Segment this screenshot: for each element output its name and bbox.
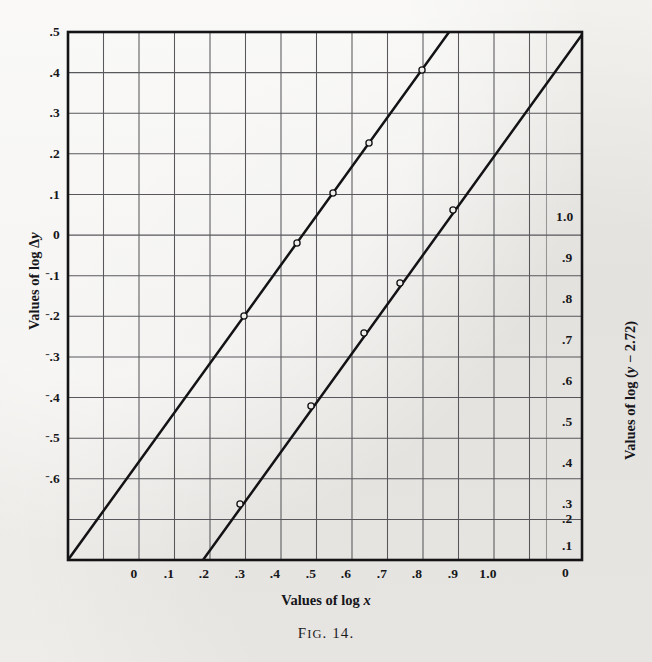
ytick-right-10: 0 — [562, 565, 602, 581]
ytick-right-2: .8 — [562, 291, 602, 307]
xtick-4: .4 — [260, 566, 290, 582]
ytick-right-0: 1.0 — [556, 209, 596, 225]
xtick-1: .1 — [154, 566, 184, 582]
ytick-left-10: -.5 — [28, 430, 60, 446]
xtick-9: .9 — [438, 566, 468, 582]
xtick-2: .2 — [189, 566, 219, 582]
plot-area — [0, 0, 652, 662]
xtick-0: 0 — [119, 566, 149, 582]
figure-caption: FIG. 14. — [0, 625, 652, 642]
ytick-right-3: .7 — [562, 332, 602, 348]
y-axis-right-title: Values of log (y − 2.72) — [622, 321, 639, 460]
xtick-10: 1.0 — [470, 566, 506, 582]
ytick-right-8: .2 — [562, 511, 602, 527]
ytick-left-0: .5 — [28, 24, 60, 40]
xtick-6: .6 — [331, 566, 361, 582]
ytick-right-6: .4 — [562, 455, 602, 471]
plot-frame — [68, 32, 582, 560]
xtick-8: .8 — [402, 566, 432, 582]
ytick-right-5: .5 — [562, 414, 602, 430]
ytick-right-4: .6 — [562, 373, 602, 389]
xtick-5: .5 — [296, 566, 326, 582]
ytick-right-9: .1 — [562, 538, 602, 554]
xtick-7: .7 — [367, 566, 397, 582]
ytick-left-3: .2 — [28, 146, 60, 162]
ytick-left-4: .1 — [28, 187, 60, 203]
grid-lines — [68, 32, 582, 560]
figure-14: .5 .4 .3 .2 .1 0 -.1 -.2 -.3 -.4 -.5 -.6… — [0, 0, 652, 662]
x-axis-title: Values of log x — [0, 592, 652, 609]
ytick-left-8: -.3 — [28, 349, 60, 365]
ytick-left-2: .3 — [28, 105, 60, 121]
ytick-left-9: -.4 — [28, 390, 60, 406]
ytick-left-1: .4 — [28, 65, 60, 81]
ytick-right-1: .9 — [562, 250, 602, 266]
ytick-right-7: .3 — [562, 496, 602, 512]
y-axis-left-title: Values of log Δy — [26, 232, 43, 330]
ytick-left-11: -.6 — [28, 471, 60, 487]
xtick-3: .3 — [225, 566, 255, 582]
